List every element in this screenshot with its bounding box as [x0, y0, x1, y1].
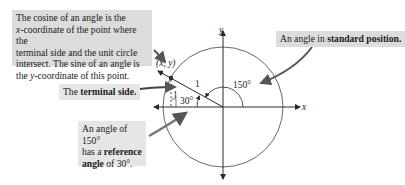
terminal-side-callout: The terminal side. — [59, 84, 140, 100]
callout-text: has a — [82, 146, 104, 157]
standard-position-pointer-arrow — [261, 47, 312, 83]
angle-150-arc — [206, 87, 243, 107]
callout-line: intersect. The sine of an angle is — [16, 58, 148, 70]
angle-150-label: 150° — [233, 80, 251, 90]
reference-angle-label: 30° — [180, 96, 194, 106]
callout-bold-text: angle — [82, 158, 104, 169]
callout-text: -coordinate of this point. — [34, 70, 129, 81]
right-angle-mark-label: 1 — [173, 90, 178, 100]
callout-text: The — [63, 86, 80, 97]
callout-bold-text: reference — [104, 146, 142, 157]
angle-30-arc — [197, 96, 200, 107]
point-label: (x, y) — [156, 58, 176, 69]
callout-line: An angle of 150° — [82, 123, 142, 146]
callout-text: the — [16, 70, 30, 81]
standard-position-callout: An angle in standard position. — [276, 31, 405, 47]
callout-line: terminal side and the unit circle — [16, 47, 148, 59]
callout-text: -coordinate of the point where the — [16, 24, 136, 47]
x-axis-label: x — [301, 102, 307, 112]
callout-line: has a reference — [82, 146, 142, 158]
callout-line: x-coordinate of the point where the — [16, 24, 148, 47]
reference-angle-pointer-arrow — [149, 113, 186, 136]
cosine-sine-callout: The cosine of an angle is the x-coordina… — [12, 10, 152, 66]
radius-label: 1 — [195, 79, 200, 89]
callout-line: angle of 30°. — [82, 158, 142, 170]
callout-line: the y-coordinate of this point. — [16, 70, 148, 82]
intersection-point — [169, 76, 173, 80]
right-angle-mark — [171, 99, 176, 107]
callout-text: of 30°. — [104, 158, 133, 169]
callout-bold-text: standard position. — [327, 33, 401, 44]
y-axis-label: y — [218, 25, 224, 35]
callout-text: An angle in — [280, 33, 327, 44]
callout-bold-text: terminal side. — [80, 86, 136, 97]
reference-angle-callout: An angle of 150° has a reference angle o… — [78, 121, 146, 166]
callout-line: The cosine of an angle is the — [16, 12, 148, 24]
